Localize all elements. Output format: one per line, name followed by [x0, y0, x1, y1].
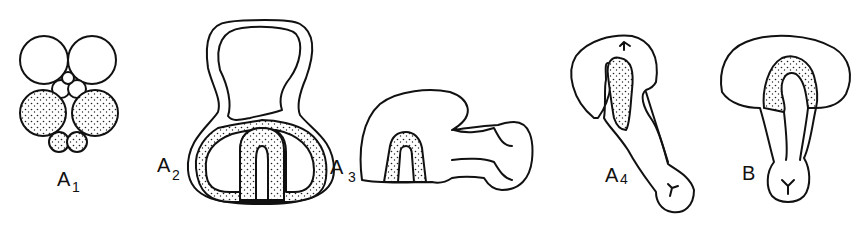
panel-a1-drawing [20, 36, 118, 152]
panel-a2-drawing [188, 20, 334, 204]
panel-b-drawing [721, 36, 850, 202]
panel-subscript: 1 [72, 179, 80, 195]
panel-a4-drawing [571, 36, 694, 213]
panel-letter: B [742, 162, 755, 184]
panel-subscript: 4 [620, 171, 628, 187]
panel-letter: A [605, 164, 619, 186]
panel-letter: A [157, 154, 171, 176]
panel-a2-label: A 2 [157, 154, 180, 183]
panel-letter: A [330, 156, 344, 178]
panel-a4-label: A 4 [605, 164, 628, 187]
panel-a3-drawing [361, 90, 533, 190]
panel-a3-label: A 3 [330, 156, 356, 185]
panel-subscript: 2 [172, 167, 180, 183]
panel-b-label: B [742, 162, 755, 184]
panel-a1-label: A 1 [57, 168, 80, 195]
embryo-stages-figure: A 1 A 2 A 3 [0, 0, 866, 225]
panel-letter: A [57, 168, 71, 190]
panel-subscript: 3 [348, 169, 356, 185]
